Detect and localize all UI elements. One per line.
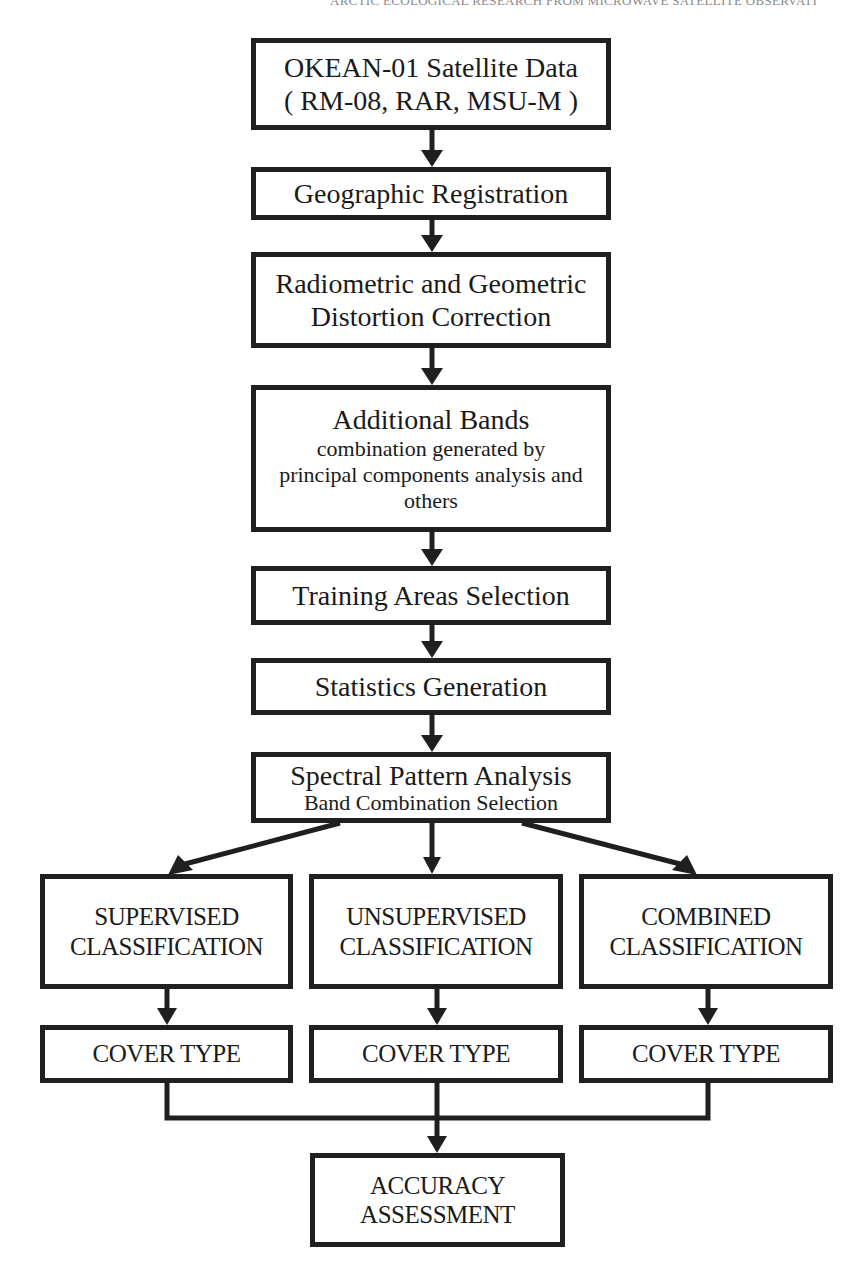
merge-connector [167, 1083, 708, 1138]
step-additional-bands-desc2: principal components analysis and [279, 462, 583, 488]
branch-supervised-line2: CLASSIFICATION [70, 932, 263, 962]
step-spectral-pattern-analysis: Spectral Pattern Analysis Band Combinati… [251, 752, 611, 823]
step-okean-satellite-data: OKEAN-01 Satellite Data ( RM-08, RAR, MS… [251, 38, 611, 130]
step-training-areas-selection: Training Areas Selection [251, 566, 611, 625]
branch-unsupervised-classification: UNSUPERVISED CLASSIFICATION [309, 874, 563, 989]
step-distortion-line1: Radiometric and Geometric [276, 267, 587, 300]
cover-type-combined: COVER TYPE [579, 1025, 833, 1083]
arrow-6-7 [421, 715, 443, 752]
step-okean-sensors: ( RM-08, RAR, MSU-M ) [284, 84, 578, 117]
step-geographic-registration: Geographic Registration [251, 167, 611, 220]
branch-supervised-line1: SUPERVISED [94, 902, 238, 932]
step-statistics-label: Statistics Generation [315, 670, 548, 703]
final-accuracy-line1: ACCURACY [370, 1171, 505, 1201]
arrow-to-unsupervised [423, 823, 441, 874]
step-distortion-correction: Radiometric and Geometric Distortion Cor… [251, 252, 611, 348]
step-training-label: Training Areas Selection [292, 579, 569, 612]
arrow-1-2 [421, 130, 443, 167]
branch-supervised-classification: SUPERVISED CLASSIFICATION [40, 874, 293, 989]
cover-type-supervised: COVER TYPE [40, 1025, 293, 1083]
cover-type-unsupervised: COVER TYPE [309, 1025, 563, 1083]
branch-combined-classification: COMBINED CLASSIFICATION [579, 874, 833, 989]
step-statistics-generation: Statistics Generation [251, 658, 611, 715]
step-additional-bands-title: Additional Bands [333, 403, 530, 436]
step-additional-bands: Additional Bands combination generated b… [251, 385, 611, 532]
arrow-4-5 [421, 532, 443, 566]
arrow-to-accuracy [427, 1136, 447, 1153]
final-accuracy-assessment: ACCURACY ASSESSMENT [310, 1153, 565, 1247]
arrow-supervised-cover [157, 989, 177, 1025]
arrow-to-combined [522, 823, 697, 875]
arrow-unsupervised-cover [427, 989, 447, 1025]
step-distortion-line2: Distortion Correction [311, 300, 551, 333]
cover-type-unsupervised-label: COVER TYPE [362, 1039, 510, 1069]
arrow-to-supervised [168, 823, 340, 875]
cover-type-combined-label: COVER TYPE [632, 1039, 780, 1069]
final-accuracy-line2: ASSESSMENT [360, 1200, 515, 1230]
step-okean-title: OKEAN-01 Satellite Data [284, 51, 578, 84]
step-geographic-registration-label: Geographic Registration [294, 177, 568, 210]
step-additional-bands-desc3: others [404, 488, 458, 514]
branch-unsupervised-line1: UNSUPERVISED [346, 902, 526, 932]
branch-combined-line2: CLASSIFICATION [609, 932, 802, 962]
cover-type-supervised-label: COVER TYPE [92, 1039, 240, 1069]
step-additional-bands-desc1: combination generated by [317, 436, 545, 462]
arrow-5-6 [421, 625, 443, 658]
branch-unsupervised-line2: CLASSIFICATION [339, 932, 532, 962]
branch-combined-line1: COMBINED [641, 902, 770, 932]
step-spectral-subtitle: Band Combination Selection [304, 791, 558, 814]
arrow-combined-cover [698, 989, 718, 1025]
arrow-3-4 [421, 348, 443, 385]
arrow-2-3 [421, 220, 443, 252]
step-spectral-title: Spectral Pattern Analysis [290, 761, 572, 790]
